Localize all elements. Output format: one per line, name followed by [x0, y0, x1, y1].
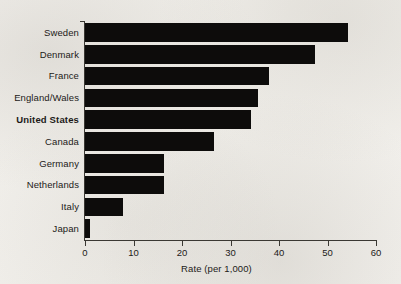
category-label: Germany	[0, 159, 79, 169]
x-axis-tick	[328, 241, 329, 246]
x-axis-tick-label: 20	[177, 248, 188, 258]
x-axis-tick	[376, 241, 377, 246]
bar	[85, 154, 164, 173]
category-label: Denmark	[0, 50, 79, 60]
bar	[85, 45, 315, 64]
category-label-column: SwedenDenmarkFranceEngland/WalesUnited S…	[0, 0, 79, 284]
x-axis-tick-label: 50	[322, 248, 333, 258]
horizontal-bar-chart: SwedenDenmarkFranceEngland/WalesUnited S…	[0, 0, 401, 284]
category-label: Japan	[0, 224, 79, 234]
category-label: Italy	[0, 202, 79, 212]
x-axis-tick-label: 30	[225, 248, 236, 258]
category-label: England/Wales	[0, 93, 79, 103]
category-label: France	[0, 71, 79, 81]
category-label: Canada	[0, 137, 79, 147]
bar	[85, 110, 251, 129]
category-label: Sweden	[0, 28, 79, 38]
bar	[85, 198, 123, 217]
x-axis-tick	[134, 241, 135, 246]
category-label: United States	[0, 115, 79, 125]
y-axis-top-tick	[80, 21, 85, 22]
y-axis-line	[84, 21, 85, 241]
bar	[85, 23, 348, 42]
x-axis-title: Rate (per 1,000)	[0, 263, 401, 274]
bar	[85, 219, 90, 238]
x-axis-tick-label: 60	[371, 248, 382, 258]
bar	[85, 176, 164, 195]
x-axis-tick-label: 10	[128, 248, 139, 258]
x-axis-tick-label: 40	[274, 248, 285, 258]
x-axis-tick	[279, 241, 280, 246]
bar	[85, 89, 258, 108]
x-axis-title-text: Rate (per 1,000)	[181, 263, 252, 274]
bar	[85, 67, 269, 86]
plot-area	[85, 22, 380, 240]
x-axis-tick	[182, 241, 183, 246]
category-label: Netherlands	[0, 180, 79, 190]
x-axis-tick	[85, 241, 86, 246]
x-axis-tick	[231, 241, 232, 246]
x-axis-tick-label: 0	[82, 248, 87, 258]
bar	[85, 132, 214, 151]
